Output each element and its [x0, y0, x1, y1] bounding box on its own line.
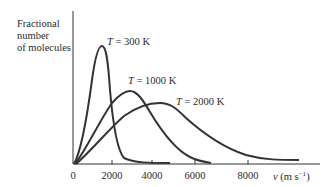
curve-label-2000k: T = 2000 K [176, 96, 224, 107]
x-tick-label-8000: 8000 [238, 170, 259, 181]
x-axis-unit-exp: −1 [299, 170, 306, 178]
x-axis-unit-close: ) [306, 171, 310, 182]
curve-label-300k: T = 300 K [107, 36, 150, 47]
curve-label-1000k: T = 1000 K [128, 75, 176, 86]
curve-label-1000k-text: = 1000 K [134, 75, 176, 86]
curve-label-2000k-text: = 2000 K [182, 96, 224, 107]
x-tick-label-4000: 4000 [142, 170, 163, 181]
curve-300k [74, 46, 170, 164]
x-tick-label-0: 0 [70, 170, 75, 181]
x-tick-label-6000: 6000 [185, 170, 206, 181]
chart-plot [0, 0, 328, 187]
curve-label-300k-text: = 300 K [113, 36, 150, 47]
x-tick-label-2000: 2000 [102, 170, 123, 181]
x-axis-label: v (m s−1) [273, 170, 310, 182]
x-axis-unit: (m s [278, 171, 299, 182]
